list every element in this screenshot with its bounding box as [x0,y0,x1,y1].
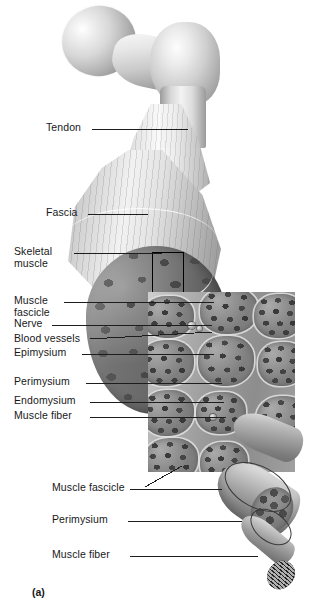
fascicle-art [198,336,254,386]
label-skeletal-muscle-line2: muscle [14,258,48,270]
label-muscle-fiber-upper: Muscle fiber [14,410,72,422]
nerve-art [197,326,202,331]
fascicle-art [200,292,258,334]
label-tendon: Tendon [46,122,81,134]
magnification-marker-box [152,252,184,294]
figure-caption: (a) [32,586,45,598]
muscle-fibers-art [148,390,194,436]
muscle-fibers-art [148,296,194,338]
label-muscle-fiber-lower: Muscle fiber [52,549,110,561]
label-nerve: Nerve [14,318,43,330]
myofibrils-art [261,555,300,595]
label-epimysium: Epimysium [14,347,66,359]
label-muscle-fascicle-upper-line1: Muscle [14,295,48,307]
blood-vessel-art [210,414,216,420]
muscle-fibers-art [148,340,194,386]
muscle-fibers-art [198,336,254,386]
fascicle-art [148,390,194,436]
muscle-fibers-art [148,438,198,472]
muscle-fiber-cut-face-art [261,555,300,595]
fascicle-art [254,294,295,338]
muscle-fibers-art [200,292,258,334]
label-perimysium-lower: Perimysium [52,514,108,526]
fascicle-art [258,342,295,386]
label-perimysium-upper: Perimysium [14,376,70,388]
fascicle-art [148,340,194,386]
anatomy-figure: Tendon Fascia Skeletal muscle Muscle fas… [0,0,322,610]
muscle-fibers-art [258,342,295,386]
label-skeletal-muscle-line1: Skeletal [14,246,52,258]
fascicle-art [148,296,194,338]
label-fascia: Fascia [46,207,78,219]
fascicle-art [148,438,198,472]
label-muscle-fascicle-lower: Muscle fascicle [52,482,125,494]
label-blood-vessels: Blood vessels [14,333,80,345]
muscle-fibers-art [254,294,295,338]
label-endomysium: Endomysium [14,395,76,407]
blood-vessel-art [188,322,195,329]
